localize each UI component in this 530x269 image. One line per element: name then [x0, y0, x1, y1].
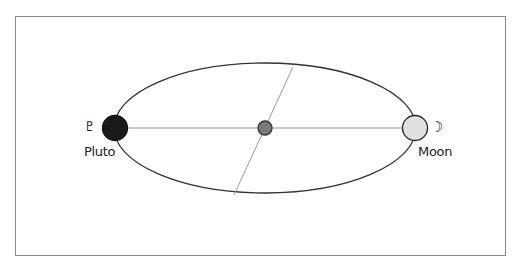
pluto-label: Pluto — [84, 144, 115, 159]
moon-label: Moon — [418, 144, 452, 159]
moon-body — [403, 116, 428, 141]
orbit-diagram — [0, 0, 530, 269]
moon-symbol-icon: ☽ — [430, 118, 443, 136]
center-body — [258, 121, 272, 135]
pluto-body — [103, 116, 128, 141]
pluto-symbol-icon: ♇ — [84, 119, 96, 134]
